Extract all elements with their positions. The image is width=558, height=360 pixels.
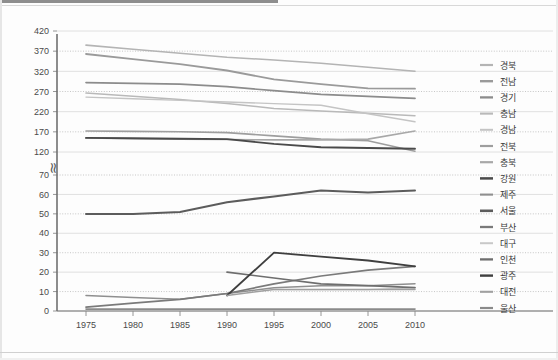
x-tick-label: 2010 [405,320,425,330]
y-tick-label: 270 [34,87,49,97]
legend-item-label: 강원 [500,174,516,184]
legend-item-label: 대구 [500,239,516,249]
legend-item-label: 울산 [500,304,516,314]
legend-item-label: 부산 [500,223,516,233]
y-tick-label: 20 [39,267,49,277]
series-line [86,97,415,122]
gridlines [57,31,553,311]
y-tick-label: 40 [39,228,49,238]
x-tick-label: 1985 [170,320,190,330]
chart-svg: 010203040506070120170220270320370420 197… [0,8,558,353]
x-tick-label: 1995 [264,320,284,330]
axis-break-icon: ≈ [44,162,62,175]
x-axis-tick-labels: 19751980198519901995200020052010 [76,320,425,330]
x-tick-label: 1990 [217,320,237,330]
series-line [86,45,415,71]
scan-artifact-top [0,0,278,3]
scan-artifact-top-line [0,5,558,6]
line-chart: 010203040506070120170220270320370420 197… [0,8,558,353]
data-series-lines [86,45,415,309]
legend-item-label: 경기 [500,92,516,103]
legend-item-label: 인천 [500,255,516,265]
legend-item-label: 충남 [500,109,516,119]
x-tick-label: 1975 [76,320,96,330]
x-tick-label: 2005 [358,320,378,330]
y-tick-label: 60 [39,190,49,200]
y-tick-label: 320 [34,67,49,77]
scanned-page: 010203040506070120170220270320370420 197… [0,0,558,360]
x-tick-label: 2000 [311,320,331,330]
legend-item-label: 전북 [500,142,516,152]
y-tick-label: 170 [34,127,49,137]
x-tick-label: 1980 [123,320,143,330]
legend-item-label: 대전 [500,287,516,297]
y-tick-label: 0 [44,306,49,316]
axis-break-symbol: ≈ [44,162,62,175]
legend-item-label: 전남 [500,77,516,87]
legend: 경북전남경기충남경남전북충북강원제주서울부산대구인천광주대전울산 [480,60,516,314]
legend-item-label: 경북 [500,60,516,71]
y-tick-label: 50 [39,209,49,219]
legend-item-label: 제주 [500,190,516,200]
legend-item-label: 광주 [500,270,516,281]
legend-item-label: 충북 [500,158,516,168]
legend-item-label: 서울 [500,206,516,216]
axes [53,31,553,316]
y-tick-label: 220 [34,107,49,117]
y-tick-label: 120 [34,147,49,157]
y-tick-label: 420 [34,26,49,36]
y-tick-label: 370 [34,46,49,56]
y-tick-label: 10 [39,287,49,297]
y-tick-label: 30 [39,248,49,258]
legend-item-label: 경남 [500,124,516,135]
